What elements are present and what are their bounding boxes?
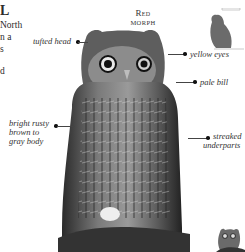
section-title-fragment: L xyxy=(0,3,10,19)
label-tufted-head: tufted head xyxy=(33,37,71,46)
leader-line xyxy=(176,82,194,83)
label-dot xyxy=(193,80,197,84)
screech-owl-image xyxy=(58,28,190,252)
label-yellow-eyes: yellow eyes xyxy=(190,50,229,59)
body-text-line: d xyxy=(0,66,5,76)
body-text-line: n a xyxy=(0,32,11,42)
label-body-color-3: gray body xyxy=(9,137,43,146)
gray-morph-thumbnail xyxy=(212,228,245,252)
leader-line xyxy=(168,54,184,55)
body-text-line: North xyxy=(0,20,22,30)
label-dot xyxy=(206,136,210,140)
small-owl-icon xyxy=(212,228,245,252)
leader-line xyxy=(78,42,88,43)
label-dot xyxy=(183,52,187,56)
leader-line xyxy=(188,138,208,139)
morph-heading: Red morph xyxy=(118,9,168,27)
leader-line xyxy=(57,126,75,127)
owl-silhouette-icon xyxy=(200,8,245,50)
owl-photo xyxy=(58,28,190,252)
label-pale-bill: pale bill xyxy=(200,78,228,87)
morph-heading-line1: Red xyxy=(118,9,168,18)
label-streaked-2: underparts xyxy=(203,141,240,150)
morph-heading-line2: morph xyxy=(118,18,168,27)
perched-owl-silhouette xyxy=(200,8,245,50)
body-text-line: s xyxy=(0,44,4,54)
